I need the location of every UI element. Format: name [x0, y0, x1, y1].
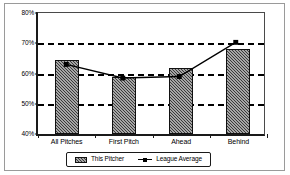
legend-label-this-pitcher: This Pitcher	[91, 156, 124, 163]
league-average-point-first-pitch[interactable]	[120, 76, 125, 81]
x-tick-label-all-pitches: All Pitches	[51, 138, 83, 145]
chart-container: 80% 70% 60% 50% 40%	[0, 0, 290, 175]
y-tick-label-80: 80%	[22, 10, 34, 17]
plot-area: 80% 70% 60% 50% 40%	[36, 12, 265, 136]
y-tick-label-50: 50%	[22, 101, 34, 108]
y-tick-label-70: 70%	[22, 40, 34, 47]
league-average-point-behind[interactable]	[233, 40, 238, 45]
x-tick-mark-4	[267, 134, 268, 138]
y-tick-label-60: 60%	[22, 70, 34, 77]
chart-legend: This Pitcher League Average	[66, 152, 211, 167]
legend-item-league-average[interactable]: League Average	[138, 156, 202, 163]
x-tick-mark-0	[38, 134, 39, 138]
league-average-point-ahead[interactable]	[177, 74, 182, 79]
plot-inner: 80% 70% 60% 50% 40%	[38, 13, 264, 134]
x-tick-mark-1	[95, 134, 96, 138]
x-tick-label-behind: Behind	[228, 138, 249, 145]
legend-line-marker	[143, 158, 147, 162]
x-tick-mark-3	[210, 134, 211, 138]
legend-item-this-pitcher[interactable]: This Pitcher	[75, 156, 124, 163]
x-tick-label-ahead: Ahead	[171, 138, 191, 145]
y-tick-label-40: 40%	[22, 131, 34, 138]
x-tick-label-first-pitch: First Pitch	[109, 138, 139, 145]
legend-label-league-average: League Average	[156, 156, 202, 163]
legend-line-swatch-icon	[138, 156, 152, 163]
legend-bar-swatch-icon	[75, 157, 87, 163]
league-average-point-all-pitches[interactable]	[64, 62, 69, 67]
league-average-polyline	[66, 42, 236, 78]
x-tick-mark-2	[153, 134, 154, 138]
line-series-league-average	[38, 13, 264, 134]
